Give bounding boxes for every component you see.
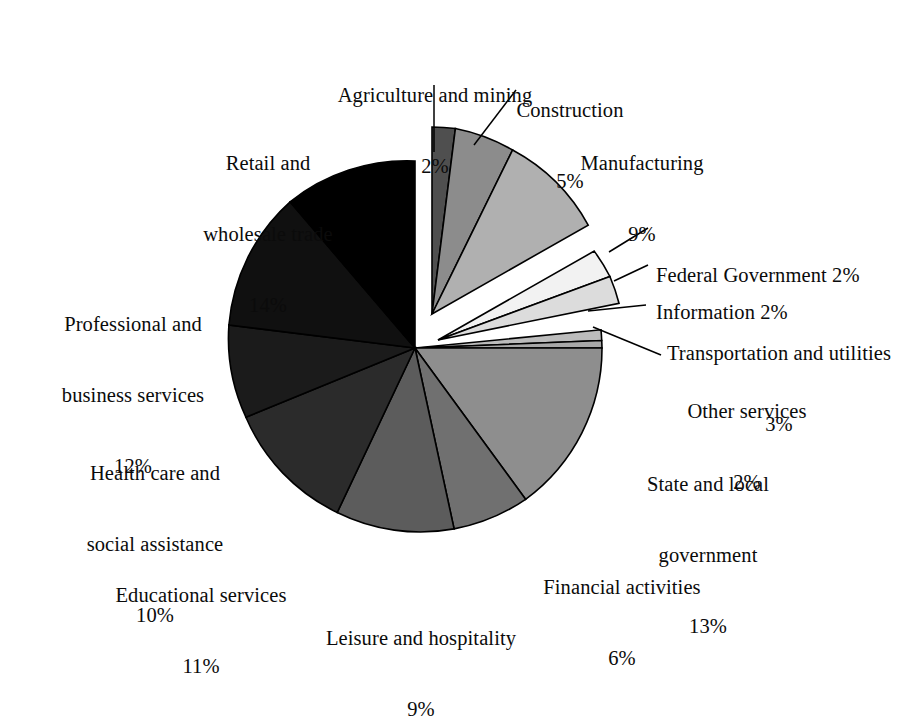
- label-percent: 12%: [35, 455, 231, 479]
- label-financial-activities: Financial activities 6%: [527, 528, 717, 718]
- label-leisure-and-hospitality: Leisure and hospitality 9%: [305, 579, 537, 720]
- label-text-2: social assistance: [55, 533, 255, 557]
- label-percent: 6%: [527, 647, 717, 671]
- label-text: Other services: [665, 400, 829, 424]
- label-text: State and local: [615, 473, 801, 497]
- label-text: Leisure and hospitality: [305, 627, 537, 651]
- label-text-2: wholesale trade: [172, 223, 364, 247]
- label-percent: 9%: [305, 698, 537, 720]
- label-text: Manufacturing: [562, 152, 722, 176]
- label-text-2: business services: [35, 384, 231, 408]
- leader-line-other-services: [593, 327, 661, 355]
- label-text: Financial activities: [527, 576, 717, 600]
- label-text: Retail and: [172, 152, 364, 176]
- label-percent: 10%: [55, 604, 255, 628]
- label-percent: 14%: [172, 294, 364, 318]
- label-retail-and-wholesale-trade: Retail and wholesale trade 14%: [172, 104, 364, 365]
